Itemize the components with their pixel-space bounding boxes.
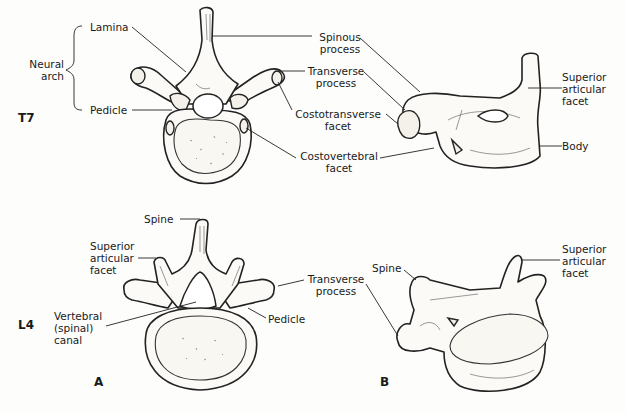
label-costovertebral-facet: Costovertebral facet	[294, 150, 384, 174]
label-costotransverse-facet: Costotransverse facet	[290, 108, 386, 132]
t7-superior-view	[131, 8, 284, 184]
label-level-t7: T7	[18, 112, 35, 124]
panel-label-b: B	[380, 376, 389, 388]
label-pedicle-t7: Pedicle	[90, 104, 127, 116]
label-transverse-process-l4: Transverse process	[302, 273, 370, 297]
label-vertebral-canal: Vertebral (spinal) canal	[54, 310, 102, 346]
label-spinous-process: Spinous process	[310, 31, 370, 55]
label-level-l4: L4	[18, 319, 34, 331]
label-neural-arch: Neural arch	[16, 58, 64, 82]
label-transverse-process-t7: Transverse process	[302, 65, 370, 89]
label-superior-articular-facet-l4-b: Superior articular facet	[562, 243, 606, 279]
label-spine-l4-a: Spine	[144, 213, 173, 225]
label-spine-l4-b: Spine	[372, 262, 401, 274]
label-pedicle-l4: Pedicle	[268, 313, 305, 325]
vertebrae-diagram: Neural arch T7 Lamina Pedicle Spinous pr…	[0, 0, 626, 412]
l4-superior-view	[124, 220, 275, 391]
panel-label-a: A	[94, 376, 103, 388]
vertebrae-illustration	[0, 0, 626, 412]
label-body: Body	[562, 140, 589, 152]
label-lamina: Lamina	[90, 21, 129, 33]
label-superior-articular-facet-t7: Superior articular facet	[562, 71, 606, 107]
label-superior-articular-facet-l4-a: Superior articular facet	[90, 240, 134, 276]
l4-lateral-view	[397, 255, 548, 391]
